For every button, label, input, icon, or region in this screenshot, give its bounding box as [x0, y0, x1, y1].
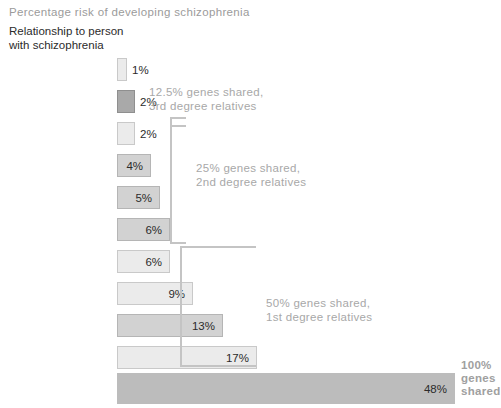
bar-value: 4%: [126, 155, 143, 178]
bar-value: 6%: [145, 251, 162, 274]
bar-value: 48%: [424, 374, 447, 405]
annotation-100-percent: 100% genes shared: [461, 359, 501, 398]
annotation-2nd-degree: 25% genes shared, 2nd degree relatives: [196, 161, 306, 189]
bar: 48%: [117, 373, 455, 404]
bar: 6%: [117, 218, 170, 241]
bar-value: 6%: [145, 219, 162, 242]
bracket-1st-degree: [180, 246, 256, 367]
bar-value: 2%: [140, 123, 157, 146]
bar: 1%: [117, 58, 127, 81]
bar: 2%: [117, 90, 135, 113]
bracket-2nd-degree: [170, 125, 186, 244]
bar-value: 5%: [135, 187, 152, 210]
bar: 4%: [117, 154, 151, 177]
bar: 5%: [117, 186, 160, 209]
schizophrenia-risk-chart: Percentage risk of developing schizophre…: [0, 0, 501, 408]
bar: 2%: [117, 122, 135, 145]
annotation-3rd-degree: 12.5% genes shared, 3rd degree relatives: [149, 85, 263, 113]
annotation-1st-degree: 50% genes shared, 1st degree relatives: [266, 296, 372, 324]
bar: 6%: [117, 250, 170, 273]
bar-value: 1%: [132, 59, 149, 82]
